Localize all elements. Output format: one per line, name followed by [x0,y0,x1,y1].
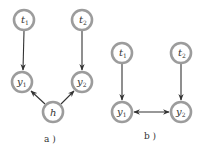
node-b-t2: t2 [171,43,191,63]
edge-h-y2 [61,91,74,104]
node-b-t1: t1 [112,43,132,63]
node-a-t1: t1 [14,10,34,30]
svg-text:h: h [50,107,56,118]
node-a-y1: y1 [12,72,32,92]
caption-a: a ) [44,134,56,144]
node-b-y1: y1 [112,102,132,122]
panel-a-edges [23,31,82,104]
node-a-h: h [43,102,63,122]
edge-h-y1 [31,91,45,104]
node-a-t2: t2 [72,10,92,30]
edge-t1-y1 [23,31,24,70]
caption-b: b ) [144,131,156,141]
node-a-y2: y2 [72,72,92,92]
causal-diagram: t1 t2 y1 y2 h a ) t1 t2 y1 y2 b ) [0,0,203,153]
panel-b-edges [122,64,181,112]
node-b-y2: y2 [171,102,191,122]
